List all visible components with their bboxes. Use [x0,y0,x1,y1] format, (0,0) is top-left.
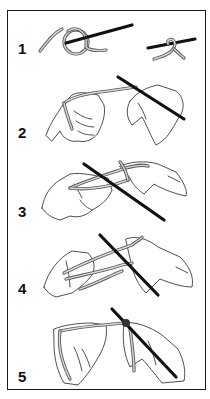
left-hand [46,93,105,142]
knot-on-needle [148,39,195,59]
step-5-illustration [8,309,207,391]
step-2: 2 [8,73,207,155]
step-1: 1 [8,11,207,76]
step-4-illustration [8,231,207,311]
step-3: 3 [8,154,207,232]
left-hand [42,173,112,220]
step-3-illustration [8,154,207,232]
stitch-knot [122,319,130,327]
illustration-frame: 1 2 [7,10,206,390]
right-hand [126,237,193,293]
slip-knot-illustration [8,11,207,76]
right-hand [127,85,183,145]
step-2-illustration [8,73,207,155]
step-4: 4 [8,231,207,311]
step-5: 5 [8,309,207,391]
